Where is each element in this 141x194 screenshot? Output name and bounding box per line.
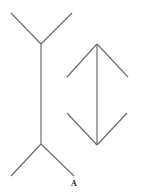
figure-fins-outward bbox=[11, 13, 74, 176]
fin-line bbox=[41, 13, 72, 44]
fin-line bbox=[67, 113, 97, 145]
fin-line bbox=[11, 144, 41, 176]
muller-lyer-diagram: A bbox=[0, 0, 141, 194]
figure-fins-inward bbox=[67, 44, 128, 145]
fin-line bbox=[41, 144, 74, 176]
fin-line bbox=[97, 44, 128, 77]
fin-line bbox=[97, 113, 127, 145]
fin-line bbox=[67, 44, 97, 77]
fin-line bbox=[11, 13, 41, 44]
figure-label: A bbox=[71, 180, 77, 188]
illusion-figures bbox=[0, 0, 141, 194]
